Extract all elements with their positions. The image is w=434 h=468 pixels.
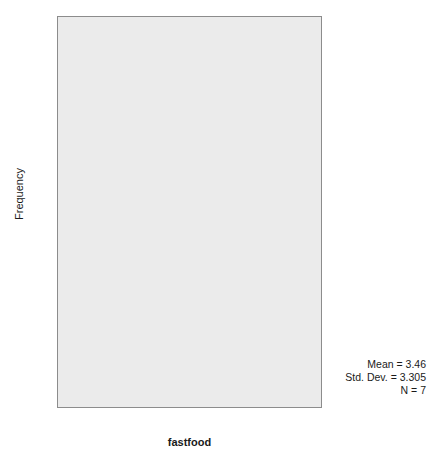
stat-std-dev: Std. Dev. = 3.305 xyxy=(345,371,426,384)
histogram-figure: Frequency fastfood Mean = 3.46 Std. Dev.… xyxy=(0,0,434,468)
plot-area xyxy=(57,16,322,408)
y-axis-title: Frequency xyxy=(13,168,25,220)
stat-mean: Mean = 3.46 xyxy=(345,358,426,371)
bars-container xyxy=(58,17,321,407)
x-axis: fastfood xyxy=(0,408,434,468)
y-axis: Frequency xyxy=(0,0,57,468)
stat-n: N = 7 xyxy=(345,384,426,397)
x-axis-title: fastfood xyxy=(57,436,322,448)
statistics-annotation: Mean = 3.46 Std. Dev. = 3.305 N = 7 xyxy=(345,358,426,397)
